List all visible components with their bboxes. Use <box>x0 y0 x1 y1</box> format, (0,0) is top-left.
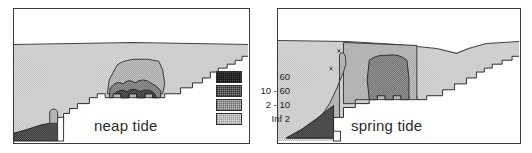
legend-label-10-60: 10 - 60 <box>244 85 290 97</box>
legend-row: 2 - 10 <box>214 99 292 112</box>
panel-label-neap: neap tide <box>94 117 158 134</box>
legend-row: Inf 2 <box>214 113 292 126</box>
panel-spring-tide: spring tide <box>277 8 521 144</box>
legend-label-60: 60 <box>244 71 290 83</box>
legend-row: 10 - 60 <box>214 85 292 98</box>
legend-swatch-60-icon <box>216 71 242 83</box>
legend-label-inf-2: Inf 2 <box>244 113 290 125</box>
spring-central-blob-class-10-60 <box>367 55 409 100</box>
legend-label-2-10: 2 - 10 <box>244 99 290 111</box>
concentration-legend: 60 10 - 60 2 - 10 Inf 2 <box>214 71 292 127</box>
legend-swatch-inf2-icon <box>216 113 242 125</box>
spring-bank-shelf-block <box>334 131 341 141</box>
legend-row: 60 <box>214 71 292 84</box>
figure-root: neap tide <box>0 0 532 153</box>
legend-swatch-10-60-icon <box>216 85 242 97</box>
legend-swatch-2-10-icon <box>216 99 242 111</box>
panel-label-spring: spring tide <box>351 117 422 134</box>
